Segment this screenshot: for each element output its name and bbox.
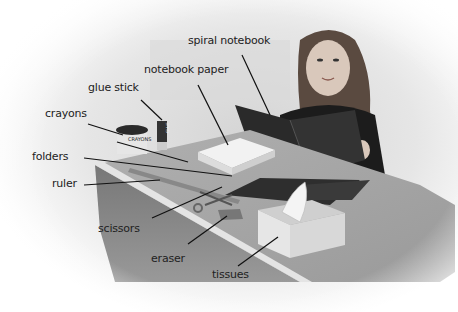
label-ruler: ruler (52, 177, 77, 190)
label-notebook-paper: notebook paper (144, 63, 228, 76)
label-scissors: scissors (98, 222, 140, 235)
label-glue-stick: glue stick (88, 81, 139, 94)
label-crayons: crayons (45, 107, 87, 120)
label-spiral-notebook: spiral notebook (188, 34, 270, 47)
diagram: CRAYONS GLUE (0, 0, 458, 312)
label-eraser: eraser (151, 252, 185, 265)
label-tissues: tissues (212, 268, 249, 281)
label-folders: folders (32, 150, 68, 163)
